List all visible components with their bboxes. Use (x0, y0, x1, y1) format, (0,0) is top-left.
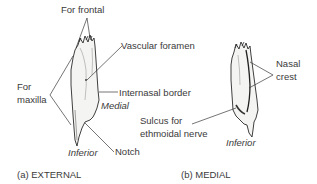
label-inferior-external: Inferior (68, 147, 98, 158)
label-for-frontal: For frontal (61, 4, 104, 15)
label-internasal-border: Internasal border (119, 87, 191, 98)
label-sulcus-line1: Sulcus for (140, 115, 182, 126)
caption-medial: (b) MEDIAL (181, 169, 231, 180)
nasal-bone-external-drawing (71, 35, 99, 146)
label-vascular-foramen: Vascular foramen (121, 40, 195, 51)
label-sulcus-line2: ethmoidal nerve (140, 128, 208, 139)
label-nasal-crest-line2: crest (276, 71, 297, 82)
label-medial: Medial (101, 100, 129, 111)
label-for-maxilla-line2: maxilla (17, 94, 47, 105)
label-for-maxilla-line1: For (17, 81, 31, 92)
label-inferior-medial: Inferior (226, 137, 256, 148)
caption-external: (a) EXTERNAL (17, 169, 81, 180)
nasal-bone-medial-drawing (231, 42, 258, 137)
label-nasal-crest-line1: Nasal (276, 58, 300, 69)
label-notch: Notch (115, 146, 140, 157)
